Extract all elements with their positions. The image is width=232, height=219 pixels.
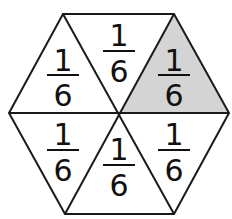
piece-bottom-right: 1 6 (158, 117, 190, 188)
denominator: 6 (164, 78, 183, 113)
numerator: 1 (164, 117, 183, 152)
piece-top-left: 1 6 (47, 43, 79, 113)
numerator: 1 (53, 43, 72, 78)
denominator: 6 (53, 78, 72, 113)
piece-bottom: 1 6 (103, 132, 135, 203)
numerator: 1 (109, 18, 128, 53)
piece-top: 1 6 (103, 18, 135, 89)
denominator: 6 (109, 54, 128, 89)
denominator: 6 (164, 153, 183, 188)
denominator: 6 (109, 168, 128, 203)
piece-bottom-left: 1 6 (47, 117, 79, 188)
denominator: 6 (53, 153, 72, 188)
hexagon-fraction-diagram: 1 6 1 6 1 6 1 6 1 6 1 6 (0, 0, 232, 219)
numerator: 1 (164, 43, 183, 78)
numerator: 1 (109, 132, 128, 167)
numerator: 1 (53, 117, 72, 152)
